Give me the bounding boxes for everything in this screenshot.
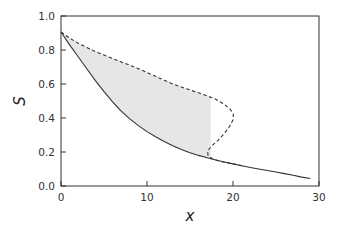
y-ticks: 0.00.20.40.60.81.0	[38, 10, 66, 192]
x-axis-label: x	[185, 207, 195, 225]
y-tick-label: 0.2	[38, 146, 55, 158]
y-tick-label: 0.0	[38, 180, 55, 192]
y-tick-label: 1.0	[38, 10, 55, 22]
x-tick-label: 30	[312, 191, 325, 203]
y-tick-label: 0.8	[38, 44, 55, 56]
shaded-region-layer	[61, 32, 211, 159]
x-tick-label: 0	[58, 191, 65, 203]
chart: 0102030 0.00.20.40.60.81.0 x S	[0, 0, 339, 233]
y-tick-label: 0.4	[38, 112, 55, 124]
x-tick-label: 10	[140, 191, 153, 203]
shaded-region	[61, 32, 211, 159]
x-tick-label: 20	[226, 191, 239, 203]
y-tick-label: 0.6	[38, 78, 55, 90]
x-ticks: 0102030	[58, 181, 326, 203]
y-axis-label: S	[11, 96, 29, 106]
